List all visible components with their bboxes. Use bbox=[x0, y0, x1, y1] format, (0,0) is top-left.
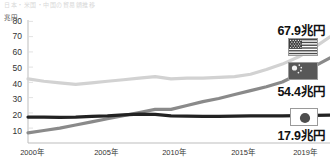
x-tick-2015: 2015年 bbox=[221, 148, 265, 157]
chart-figure: 日本・米国・中国の貿易額推移 兆円 80 70 60 50 40 30 20 1… bbox=[0, 0, 330, 164]
x-tick-2010: 2010年 bbox=[152, 148, 196, 157]
japan-flag-svg bbox=[291, 109, 318, 126]
x-tick-2005: 2005年 bbox=[84, 148, 128, 157]
callout-japan-value: 17.9兆円 bbox=[277, 125, 326, 144]
us-flag-svg bbox=[289, 39, 318, 56]
china-flag-svg bbox=[289, 63, 318, 80]
y-gridline-ticks bbox=[28, 21, 33, 128]
japan-flag-icon bbox=[290, 108, 318, 126]
line-series-japan bbox=[28, 114, 330, 117]
x-tick-2019: 2019年 bbox=[283, 148, 327, 157]
x-tick-2000: 2000年 bbox=[10, 148, 54, 157]
us-flag-icon bbox=[288, 38, 318, 56]
china-flag-icon bbox=[288, 62, 318, 80]
callout-us-value: 67.9兆円 bbox=[277, 20, 326, 39]
line-series-us bbox=[28, 37, 330, 85]
callout-china-value: 54.4兆円 bbox=[277, 81, 326, 100]
